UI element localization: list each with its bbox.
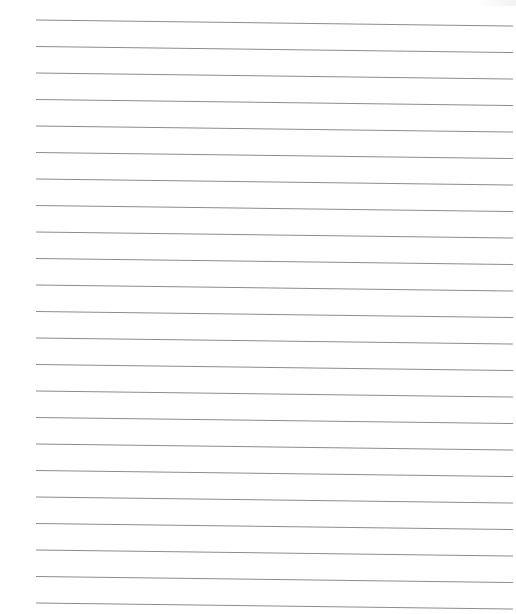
ruled-line: [36, 365, 513, 371]
ruled-line: [36, 391, 513, 397]
ruled-line: [36, 524, 513, 530]
ruled-line: [36, 232, 513, 238]
ruled-line: [36, 153, 513, 159]
ruled-lines: [0, 0, 516, 614]
ruled-line: [36, 444, 513, 450]
ruled-line: [36, 418, 513, 424]
ruled-line: [36, 471, 513, 477]
ruled-line: [36, 73, 513, 79]
ruled-line: [36, 312, 513, 318]
ruled-line: [36, 497, 513, 503]
ruled-line: [36, 206, 513, 212]
ruled-line: [36, 179, 513, 185]
ruled-line: [36, 47, 513, 53]
ruled-line: [36, 338, 513, 344]
ruled-line: [36, 550, 513, 556]
ruled-line: [36, 603, 513, 609]
ruled-line: [36, 259, 513, 265]
ruled-line: [36, 126, 513, 132]
ruled-line: [36, 20, 513, 26]
ruled-line: [36, 577, 513, 583]
ruled-line: [36, 100, 513, 106]
lined-paper-page: [0, 0, 516, 614]
ruled-line: [36, 285, 513, 291]
